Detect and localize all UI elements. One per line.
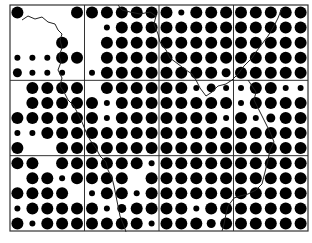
density-dot xyxy=(86,172,98,184)
density-dot xyxy=(86,112,98,124)
density-dot xyxy=(11,112,23,124)
density-dot xyxy=(44,70,50,76)
density-dot xyxy=(131,202,143,214)
density-dot xyxy=(175,52,187,64)
density-dot xyxy=(190,142,202,154)
density-dot xyxy=(235,7,247,19)
density-dot xyxy=(205,157,217,169)
density-dot xyxy=(56,112,68,124)
density-dot xyxy=(295,112,307,124)
density-dot xyxy=(190,172,202,184)
density-dot xyxy=(265,202,277,214)
density-dot xyxy=(104,205,110,211)
density-dot xyxy=(161,112,173,124)
density-dot xyxy=(190,52,202,64)
density-dot xyxy=(131,37,143,49)
density-dot xyxy=(265,172,277,184)
density-dot xyxy=(71,97,83,109)
density-dot xyxy=(190,37,202,49)
density-dot xyxy=(175,97,187,109)
density-dot xyxy=(280,142,292,154)
density-dot xyxy=(265,97,277,109)
density-dot xyxy=(134,190,140,196)
density-dot xyxy=(250,127,262,139)
density-dot xyxy=(71,142,83,154)
density-dot xyxy=(295,7,307,19)
density-dot xyxy=(59,175,65,181)
density-dot xyxy=(26,202,38,214)
density-dot xyxy=(101,172,113,184)
density-dot xyxy=(56,218,68,230)
density-dot xyxy=(71,172,83,184)
density-dot xyxy=(205,127,217,139)
density-dot xyxy=(26,187,38,199)
density-dot xyxy=(146,97,158,109)
density-dot xyxy=(175,22,187,34)
density-dot xyxy=(235,142,247,154)
density-dot xyxy=(71,218,83,230)
density-dot xyxy=(178,10,184,16)
density-dot xyxy=(205,187,217,199)
density-dot xyxy=(265,52,277,64)
density-dot xyxy=(161,187,173,199)
density-dot xyxy=(89,70,95,76)
density-dot xyxy=(190,22,202,34)
density-dot xyxy=(71,52,83,64)
density-dot xyxy=(250,67,262,79)
density-dot xyxy=(235,127,247,139)
density-dot xyxy=(116,142,128,154)
density-dot xyxy=(116,187,128,199)
density-dot xyxy=(41,187,53,199)
density-dot xyxy=(205,112,217,124)
density-dot xyxy=(220,172,232,184)
density-dot xyxy=(223,115,229,121)
density-dot xyxy=(235,172,247,184)
density-dot xyxy=(101,82,113,94)
density-dot xyxy=(235,52,247,64)
density-dot xyxy=(11,187,23,199)
density-dot xyxy=(295,67,307,79)
density-dot xyxy=(175,82,187,94)
density-dot xyxy=(220,37,232,49)
density-dot xyxy=(280,112,292,124)
density-dot xyxy=(116,127,128,139)
density-dot xyxy=(205,7,217,19)
density-dot xyxy=(223,85,229,91)
density-dot xyxy=(104,115,110,121)
density-dot xyxy=(101,142,113,154)
density-dot xyxy=(205,202,217,214)
density-dot xyxy=(116,52,128,64)
density-dot xyxy=(161,37,173,49)
density-dot xyxy=(86,97,98,109)
density-dot xyxy=(205,172,217,184)
density-dot xyxy=(280,172,292,184)
density-dot xyxy=(280,52,292,64)
density-dot xyxy=(131,157,143,169)
density-dot xyxy=(29,55,35,61)
density-dot xyxy=(175,218,187,230)
density-dot xyxy=(26,157,38,169)
density-dot xyxy=(265,218,277,230)
density-dot xyxy=(295,187,307,199)
density-dot xyxy=(280,22,292,34)
density-dot xyxy=(190,157,202,169)
density-dot xyxy=(175,127,187,139)
density-dot xyxy=(56,82,68,94)
density-dot xyxy=(298,85,304,91)
density-dot xyxy=(71,127,83,139)
density-dot xyxy=(14,130,20,136)
density-dot xyxy=(161,202,173,214)
density-dot xyxy=(161,127,173,139)
density-dot xyxy=(220,142,232,154)
density-dot xyxy=(149,160,155,166)
density-dot xyxy=(41,97,53,109)
density-dot xyxy=(56,187,68,199)
density-dot xyxy=(71,7,83,19)
density-dot xyxy=(161,52,173,64)
density-dot xyxy=(280,202,292,214)
density-dot xyxy=(41,127,53,139)
density-dot xyxy=(295,97,307,109)
density-dot xyxy=(101,187,113,199)
density-dot xyxy=(265,82,277,94)
density-dot xyxy=(295,37,307,49)
